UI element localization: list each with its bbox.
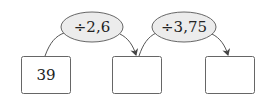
value-box-3[interactable] [206, 57, 255, 94]
operation-label-2: ÷3,75 [161, 18, 207, 36]
operation-chain-diagram: ÷2,6 ÷3,75 39 [0, 0, 267, 105]
arrow-ellipse2-to-box3 [212, 34, 228, 55]
arrow-ellipse1-to-box2 [120, 34, 136, 55]
operation-label-1: ÷2,6 [74, 18, 110, 36]
operation-ellipse-2: ÷3,75 [152, 12, 216, 42]
value-box-1: 39 [22, 57, 71, 94]
operation-ellipse-1: ÷2,6 [61, 12, 123, 42]
arc-box2-to-ellipse2 [139, 33, 156, 56]
arc-box1-to-ellipse1 [45, 33, 64, 56]
value-box-2[interactable] [113, 57, 162, 94]
value-box-1-text: 39 [36, 66, 55, 84]
